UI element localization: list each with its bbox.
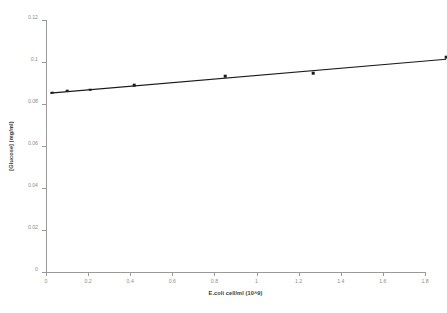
x-tick-label: 1.8: [421, 279, 428, 284]
x-tick-mark: [341, 272, 342, 276]
x-tick-label: 0: [45, 279, 48, 284]
x-tick-label: 1.4: [337, 279, 344, 284]
x-tick-label: 0.2: [85, 279, 92, 284]
x-tick-mark: [257, 272, 258, 276]
x-tick-mark: [214, 272, 215, 276]
x-tick-label: 1.2: [295, 279, 302, 284]
data-point: [224, 75, 227, 78]
x-tick-mark: [46, 272, 47, 276]
x-tick-label: 1.6: [379, 279, 386, 284]
y-tick-label: 0.02: [28, 225, 38, 230]
x-tick-mark: [130, 272, 131, 276]
x-tick-label: 0.4: [127, 279, 134, 284]
x-tick-mark: [172, 272, 173, 276]
x-tick-label: 0.6: [169, 279, 176, 284]
plot-area: 00.020.040.060.080.10.12 00.20.40.60.811…: [46, 20, 425, 272]
data-point: [51, 92, 54, 95]
x-tick-mark: [299, 272, 300, 276]
x-tick-mark: [383, 272, 384, 276]
data-point: [66, 89, 69, 92]
y-tick-label: 0.1: [31, 57, 38, 62]
x-axis-line: [46, 272, 425, 273]
x-tick-mark: [88, 272, 89, 276]
y-tick-label: 0.08: [28, 99, 38, 104]
data-point: [133, 84, 136, 87]
data-point: [89, 88, 92, 91]
x-tick-label: 0.8: [211, 279, 218, 284]
y-tick-label: 0.12: [28, 15, 38, 20]
x-tick-label: 1: [255, 279, 258, 284]
data-points: [46, 20, 425, 272]
chart-container: 00.020.040.060.080.10.12 00.20.40.60.811…: [0, 0, 447, 313]
y-tick-label: 0: [35, 267, 38, 272]
x-tick-mark: [425, 272, 426, 276]
y-tick-label: 0.04: [28, 183, 38, 188]
y-axis-title: [Glucose] (mg/ml): [8, 121, 14, 170]
y-tick-label: 0.06: [28, 141, 38, 146]
data-point: [312, 72, 315, 75]
x-axis-title: E.coli cell/ml (10^9): [46, 290, 425, 296]
